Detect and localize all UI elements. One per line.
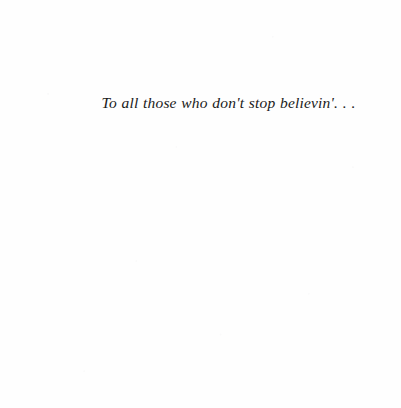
paper-grain-texture <box>0 0 401 408</box>
dedication-block: To all those who don't stop believin'. .… <box>0 93 401 113</box>
dedication-page: To all those who don't stop believin'. .… <box>0 0 401 408</box>
dedication-text: To all those who don't stop believin'. .… <box>102 94 356 111</box>
